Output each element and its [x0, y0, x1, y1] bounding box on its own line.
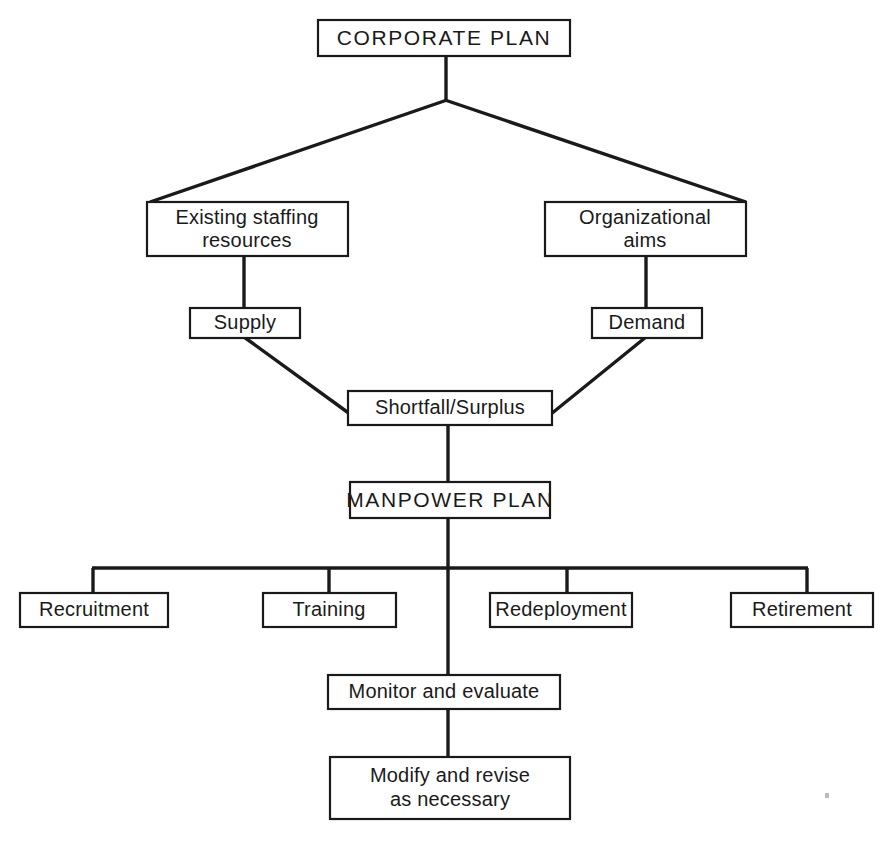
edge-corporate-plan-to-existing-staffing	[150, 100, 447, 202]
node-monitor-and-evaluate[interactable]: Monitor and evaluate	[328, 675, 560, 709]
flowchart-svg: CORPORATE PLAN Existing staffing resourc…	[0, 0, 895, 851]
node-organizational-aims[interactable]: Organizational aims	[545, 202, 746, 256]
node-manpower-plan[interactable]: MANPOWER PLAN	[346, 482, 554, 518]
edge-demand-to-shortfall-surplus	[551, 337, 646, 414]
node-existing-staffing-resources-label-line2: resources	[202, 229, 292, 251]
node-demand[interactable]: Demand	[592, 308, 702, 338]
node-demand-label: Demand	[609, 311, 686, 333]
node-redeployment-label: Redeployment	[495, 598, 627, 620]
node-training[interactable]: Training	[263, 593, 396, 627]
node-corporate-plan[interactable]: CORPORATE PLAN	[318, 20, 570, 56]
node-shortfall-surplus[interactable]: Shortfall/Surplus	[348, 391, 552, 425]
node-retirement-label: Retirement	[752, 598, 852, 620]
flowchart-canvas: CORPORATE PLAN Existing staffing resourc…	[0, 0, 895, 851]
node-organizational-aims-label-line2: aims	[623, 229, 666, 251]
node-training-label: Training	[292, 598, 365, 620]
node-manpower-plan-label: MANPOWER PLAN	[346, 488, 554, 511]
edge-supply-to-shortfall-surplus	[244, 337, 350, 414]
edge-corporate-plan-to-organizational-aims	[445, 100, 746, 202]
node-retirement[interactable]: Retirement	[731, 593, 873, 627]
node-modify-and-revise-label-line2: as necessary	[390, 788, 510, 810]
node-redeployment[interactable]: Redeployment	[490, 593, 632, 627]
node-recruitment-label: Recruitment	[39, 598, 149, 620]
node-recruitment[interactable]: Recruitment	[20, 593, 168, 627]
node-supply[interactable]: Supply	[190, 308, 300, 338]
node-modify-and-revise[interactable]: Modify and revise as necessary	[330, 757, 570, 819]
node-shortfall-surplus-label: Shortfall/Surplus	[375, 396, 525, 418]
node-organizational-aims-label-line1: Organizational	[579, 206, 711, 228]
page-speck	[825, 793, 829, 798]
node-existing-staffing-resources-label-line1: Existing staffing	[175, 206, 318, 228]
node-monitor-and-evaluate-label: Monitor and evaluate	[349, 680, 540, 702]
node-existing-staffing-resources[interactable]: Existing staffing resources	[147, 202, 348, 256]
node-supply-label: Supply	[214, 311, 276, 333]
node-corporate-plan-label: CORPORATE PLAN	[337, 26, 552, 49]
node-modify-and-revise-label-line1: Modify and revise	[370, 764, 530, 786]
